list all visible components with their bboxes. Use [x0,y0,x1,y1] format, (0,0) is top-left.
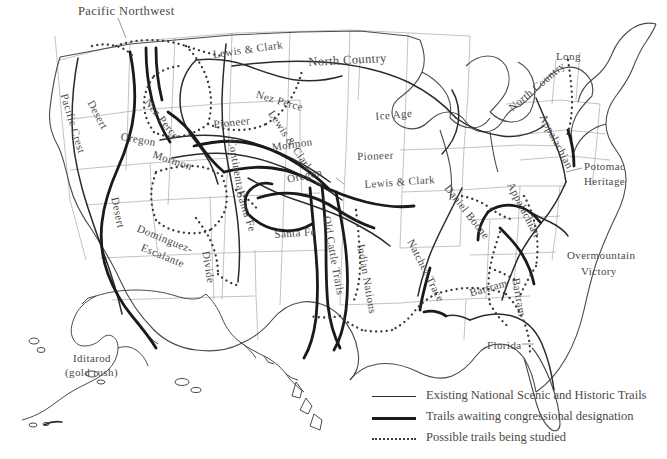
national-coastline [49,23,656,431]
legend-line-thin-solid-icon [370,390,418,402]
legend-item-studied: Possible trails being studied [370,427,660,448]
legend-item-awaiting: Trails awaiting congressional designatio… [370,406,660,427]
legend-line-thick-solid-icon [370,411,418,423]
trails-awaiting-designation [101,48,574,358]
legend-label-studied: Possible trails being studied [426,430,566,445]
label-leader-lines [118,18,582,344]
alaska-outline [22,290,322,430]
map-legend: Existing National Scenic and Historic Tr… [370,385,660,448]
legend-label-awaiting: Trails awaiting congressional designatio… [426,409,634,424]
legend-label-existing: Existing National Scenic and Historic Tr… [426,388,646,403]
state-borders [55,30,610,340]
trails-being-studied [92,40,572,352]
trails-map: Pacific NorthwestLewis & ClarkNorth Coun… [0,0,667,459]
legend-line-dotted-icon [370,432,418,444]
legend-item-existing: Existing National Scenic and Historic Tr… [370,385,660,406]
